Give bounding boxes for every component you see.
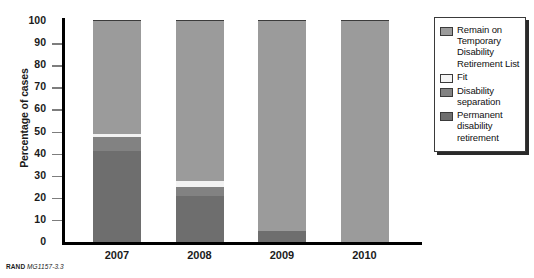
legend-swatch-disability-separation	[440, 88, 453, 97]
bar-segment	[341, 20, 389, 242]
x-axis-label-2007: 2007	[72, 249, 162, 261]
y-tick-mark	[52, 65, 62, 67]
y-tick-mark	[52, 154, 62, 156]
y-tick-label: 40	[34, 147, 46, 159]
source-prefix: RAND	[6, 263, 25, 270]
y-tick-mark	[52, 87, 62, 89]
bar-segment	[258, 231, 306, 242]
figure-source-note: RAND MG1157-3.3	[6, 263, 64, 270]
y-tick-mark	[52, 242, 62, 244]
x-axis-label-2008: 2008	[155, 249, 245, 261]
bar-segment	[176, 20, 224, 181]
y-tick-label: 30	[34, 169, 46, 181]
y-tick-mark	[52, 43, 62, 45]
bar-segment	[93, 136, 141, 151]
bar-2010	[341, 21, 389, 242]
y-tick-label: 60	[34, 102, 46, 114]
bar-2008	[176, 21, 224, 242]
source-id: MG1157-3.3	[27, 263, 64, 270]
y-tick-mark	[52, 21, 62, 23]
y-tick-mark	[52, 132, 62, 134]
legend-swatch-remain-tdrl	[440, 27, 453, 36]
y-tick-label: 0	[40, 235, 46, 247]
bar-2009	[258, 21, 306, 242]
y-tick-label: 70	[34, 80, 46, 92]
legend-item[interactable]: Remain on Temporary Disability Retiremen…	[440, 24, 521, 69]
y-tick-mark	[52, 198, 62, 200]
y-tick-label: 10	[34, 213, 46, 225]
x-axis-label-2009: 2009	[237, 249, 327, 261]
legend-swatch-permanent-disability-retirement	[440, 112, 453, 121]
chart-legend: Remain on Temporary Disability Retiremen…	[434, 17, 526, 152]
bar-2007	[93, 21, 141, 242]
x-axis-line	[62, 242, 422, 245]
y-tick-mark	[52, 109, 62, 111]
y-tick-label: 100	[28, 14, 46, 26]
y-tick-mark	[52, 176, 62, 178]
y-tick-label: 90	[34, 36, 46, 48]
y-tick-label: 80	[34, 58, 46, 70]
y-tick-label: 50	[34, 125, 46, 137]
legend-item[interactable]: Disability separation	[440, 85, 521, 107]
legend-item[interactable]: Permanent disability retirement	[440, 109, 521, 143]
legend-swatch-fit	[440, 74, 453, 83]
bar-segment	[93, 20, 141, 134]
bar-segment	[176, 186, 224, 196]
y-axis-title: Percentage of cases	[18, 38, 30, 198]
bar-segment	[176, 196, 224, 242]
bar-segment	[258, 20, 306, 231]
legend-item[interactable]: Fit	[440, 71, 521, 83]
bar-segment	[93, 151, 141, 242]
x-axis-label-2010: 2010	[320, 249, 410, 261]
legend-item-label: Remain on Temporary Disability Retiremen…	[457, 24, 521, 69]
legend-item-label: Disability separation	[457, 85, 521, 107]
legend-item-label: Permanent disability retirement	[457, 109, 521, 143]
stacked-bar-chart-figure: Percentage of cases 10090807060504030201…	[0, 0, 534, 278]
y-tick-label: 20	[34, 191, 46, 203]
y-tick-mark	[52, 220, 62, 222]
legend-item-label: Fit	[457, 71, 467, 82]
plot-area	[62, 21, 420, 242]
